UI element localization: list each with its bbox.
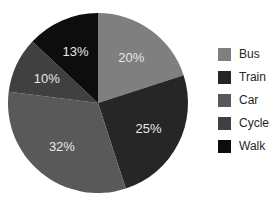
slice-label-train: 25% (135, 121, 161, 136)
legend-swatch-train (218, 71, 231, 84)
legend-item-bus: Bus (218, 47, 269, 61)
legend-label: Bus (239, 47, 260, 61)
legend-swatch-car (218, 94, 231, 107)
legend-item-walk: Walk (218, 139, 269, 153)
legend-label: Train (239, 70, 266, 84)
slice-label-walk: 13% (62, 44, 88, 59)
chart-legend: BusTrainCarCycleWalk (218, 47, 269, 153)
legend-label: Car (239, 93, 258, 107)
legend-item-cycle: Cycle (218, 116, 269, 130)
legend-item-train: Train (218, 70, 269, 84)
legend-label: Walk (239, 139, 265, 153)
slice-label-cycle: 10% (34, 71, 60, 86)
legend-label: Cycle (239, 116, 269, 130)
slice-label-bus: 20% (118, 50, 144, 65)
legend-swatch-bus (218, 48, 231, 61)
legend-swatch-cycle (218, 117, 231, 130)
slice-label-car: 32% (49, 139, 75, 154)
pie-chart-figure: 20%25%32%10%13% BusTrainCarCycleWalk (0, 0, 277, 199)
legend-item-car: Car (218, 93, 269, 107)
legend-swatch-walk (218, 140, 231, 153)
